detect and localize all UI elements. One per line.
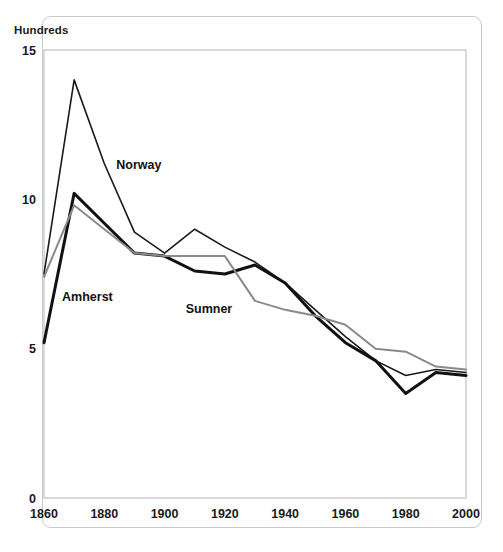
line-chart-svg: 051015 18601880190019201940196019802000 … (0, 0, 503, 552)
x-tick-label: 1860 (30, 507, 58, 521)
y-tick-label: 10 (22, 193, 36, 207)
x-tick-label: 1920 (211, 507, 239, 521)
x-tick-label: 1940 (271, 507, 299, 521)
y-tick-label: 15 (22, 44, 36, 58)
chart-figure: Hundreds 051015 186018801900192019401960… (0, 0, 503, 552)
x-tick-label: 2000 (452, 507, 480, 521)
plot-area-wrapper: 051015 18601880190019201940196019802000 … (0, 0, 503, 552)
x-tick-label: 1900 (151, 507, 179, 521)
x-tick-label: 1980 (392, 507, 420, 521)
x-tick-label: 1960 (332, 507, 360, 521)
series-label-sumner: Sumner (186, 302, 233, 316)
series-label-norway: Norway (116, 158, 161, 172)
x-axis-tick-labels: 18601880190019201940196019802000 (30, 507, 480, 521)
plot-background (44, 50, 466, 498)
series-label-amherst: Amherst (62, 290, 114, 304)
y-axis-tick-labels: 051015 (22, 44, 36, 506)
x-tick-label: 1880 (90, 507, 118, 521)
y-tick-label: 0 (29, 492, 36, 506)
y-tick-label: 5 (29, 342, 36, 356)
